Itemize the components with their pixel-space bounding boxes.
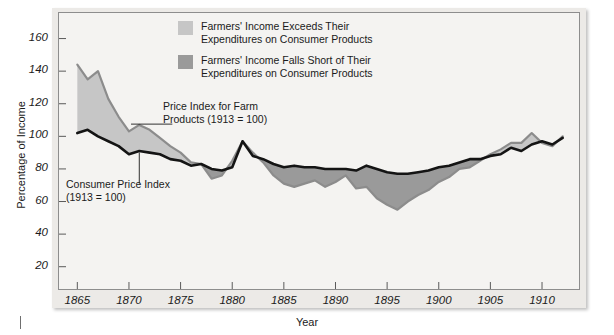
- legend-swatch-income-exceeds: [178, 21, 193, 35]
- chart-figure: 16014012010080604020 1865187018751880188…: [0, 0, 614, 335]
- x-tick-1880: 1880: [212, 294, 252, 306]
- x-tick-1890: 1890: [315, 294, 355, 306]
- annotation-farm-price-index: Price Index for Farm Products (1913 = 10…: [163, 100, 267, 126]
- x-tick-1870: 1870: [109, 294, 149, 306]
- legend-item: Farmers' Income Exceeds Their Expenditur…: [178, 20, 373, 46]
- legend-item: Farmers' Income Falls Short of Their Exp…: [178, 54, 373, 80]
- x-tick-1885: 1885: [264, 294, 304, 306]
- x-tick-1910: 1910: [522, 294, 562, 306]
- chart-legend: Farmers' Income Exceeds Their Expenditur…: [178, 20, 373, 88]
- x-tick-1875: 1875: [161, 294, 201, 306]
- x-axis-title: Year: [0, 316, 614, 328]
- x-tick-1865: 1865: [57, 294, 97, 306]
- legend-label-income-exceeds: Farmers' Income Exceeds Their Expenditur…: [201, 20, 373, 46]
- x-tick-1905: 1905: [470, 294, 510, 306]
- y-axis-title: Percentage of Income: [14, 40, 28, 270]
- x-tick-1900: 1900: [419, 294, 459, 306]
- x-tick-1895: 1895: [367, 294, 407, 306]
- annotation-consumer-price-index: Consumer Price Index (1913 = 100): [66, 178, 170, 204]
- legend-swatch-income-falls-short: [178, 55, 193, 69]
- legend-label-income-falls-short: Farmers' Income Falls Short of Their Exp…: [201, 54, 373, 80]
- page-margin-tick: [20, 316, 21, 329]
- y-axis-title-text: Percentage of Income: [15, 101, 27, 209]
